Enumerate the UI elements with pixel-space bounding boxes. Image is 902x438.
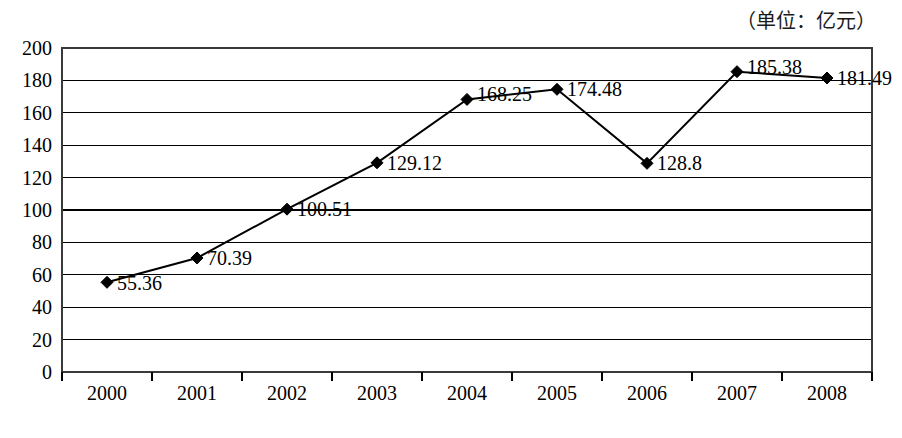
data-point-marker <box>371 157 383 169</box>
y-axis-tick-label: 80 <box>32 231 52 253</box>
data-point-label: 174.48 <box>567 78 622 100</box>
data-point-label: 181.49 <box>837 67 892 89</box>
gridlines-group <box>62 80 872 339</box>
x-axis-tick-label: 2002 <box>267 382 307 404</box>
y-axis-tick-label: 200 <box>22 37 52 59</box>
data-point-label: 129.12 <box>387 152 442 174</box>
line-chart: 020406080100120140160180200 200020012002… <box>0 0 902 438</box>
x-axis-tick-label: 2003 <box>357 382 397 404</box>
x-axis-labels-group: 200020012002200320042005200620072008 <box>87 382 847 404</box>
data-point-label: 168.25 <box>477 83 532 105</box>
y-axis-tick-label: 0 <box>42 361 52 383</box>
y-axis-tick-label: 160 <box>22 102 52 124</box>
y-axis-tick-label: 100 <box>22 199 52 221</box>
y-axis-tick-label: 180 <box>22 69 52 91</box>
y-axis-tick-label: 140 <box>22 134 52 156</box>
x-axis-tick-label: 2005 <box>537 382 577 404</box>
data-point-marker <box>821 72 833 84</box>
data-point-label: 128.8 <box>657 152 702 174</box>
data-point-marker <box>101 276 113 288</box>
y-axis-ticks-group: 020406080100120140160180200 <box>22 37 52 383</box>
data-point-labels-group: 55.3670.39100.51129.12168.25174.48128.81… <box>117 56 892 295</box>
data-point-marker <box>281 203 293 215</box>
x-axis-tick-label: 2001 <box>177 382 217 404</box>
y-axis-tick-label: 120 <box>22 167 52 189</box>
x-axis-tick-label: 2008 <box>807 382 847 404</box>
y-axis-tick-label: 60 <box>32 264 52 286</box>
data-point-marker <box>461 93 473 105</box>
y-axis-tick-label: 40 <box>32 296 52 318</box>
x-axis-tick-label: 2007 <box>717 382 757 404</box>
data-point-label: 70.39 <box>207 247 252 269</box>
chart-container: （单位：亿元） 020406080100120140160180200 2000… <box>0 0 902 438</box>
data-point-label: 100.51 <box>297 198 352 220</box>
data-point-label: 185.38 <box>747 56 802 78</box>
x-axis-tick-label: 2000 <box>87 382 127 404</box>
y-axis-tick-label: 20 <box>32 329 52 351</box>
x-axis-tick-label: 2004 <box>447 382 487 404</box>
data-point-marker <box>191 252 203 264</box>
data-point-label: 55.36 <box>117 272 162 294</box>
x-axis-ticks-group <box>62 372 872 381</box>
x-axis-tick-label: 2006 <box>627 382 667 404</box>
